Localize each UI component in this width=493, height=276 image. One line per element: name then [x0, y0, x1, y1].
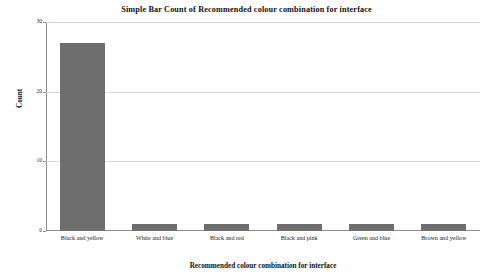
x-tick-label: Black and red [191, 234, 263, 242]
x-tick-label: Black and yellow [46, 234, 118, 242]
x-tick-label: White and blue [118, 234, 190, 242]
y-tick-label: 0 [39, 228, 42, 233]
bar [204, 224, 249, 231]
bar-chart: Simple Bar Count of Recommended colour c… [0, 0, 493, 276]
plot-area: 0102030 [46, 22, 480, 231]
bars-layer [46, 22, 480, 231]
y-tick-label: 20 [37, 89, 42, 94]
y-axis-title: Count [16, 89, 24, 108]
x-tick-label: Black and pink [263, 234, 335, 242]
x-tick-label: Green and blue [335, 234, 407, 242]
x-axis-title: Recommended colour combination for inter… [46, 262, 480, 270]
x-tick-label: Brown and yellow [408, 234, 480, 242]
y-tick-label: 10 [37, 159, 42, 164]
bar [421, 224, 466, 231]
bar [132, 224, 177, 231]
bar [60, 43, 105, 231]
bar [349, 224, 394, 231]
y-tick-mark [43, 231, 46, 232]
bar [277, 224, 322, 231]
x-tick-labels: Black and yellowWhite and blueBlack and … [46, 234, 480, 260]
y-tick-label: 30 [37, 19, 42, 24]
chart-title: Simple Bar Count of Recommended colour c… [0, 5, 493, 14]
